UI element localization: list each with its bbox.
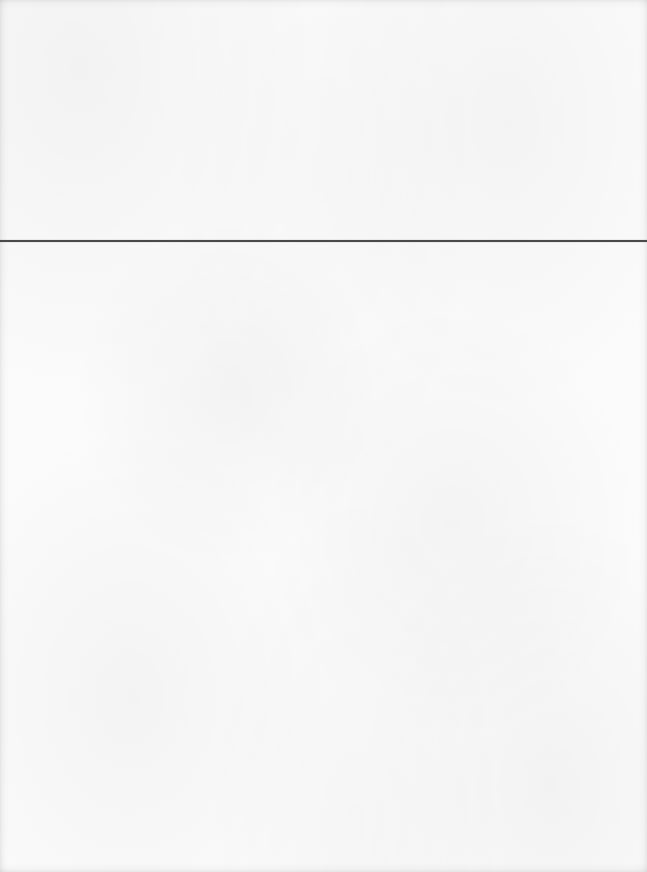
top-region (0, 0, 647, 240)
bottom-region (0, 242, 647, 872)
blank-paper-page (0, 0, 647, 872)
